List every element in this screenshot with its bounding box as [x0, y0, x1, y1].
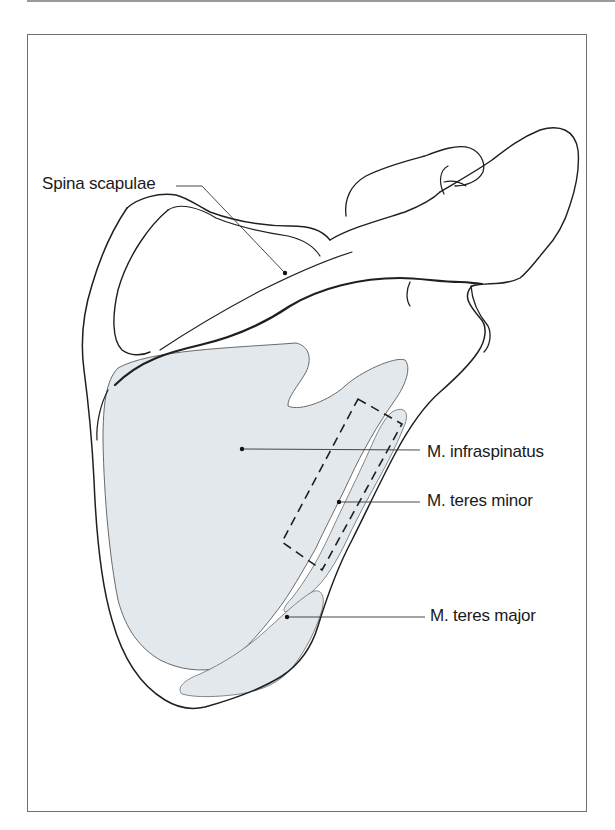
leader-spina-scapulae — [176, 186, 285, 273]
dot-infraspinatus — [240, 447, 244, 451]
label-spina-scapulae: Spina scapulae — [42, 175, 155, 192]
label-teres-major: M. teres major — [430, 607, 536, 624]
dot-spina-scapulae — [283, 271, 287, 275]
scapula-drawing — [0, 0, 615, 830]
dot-teres-major — [285, 615, 289, 619]
label-teres-minor: M. teres minor — [427, 492, 533, 509]
dot-teres-minor — [337, 500, 341, 504]
label-infraspinatus: M. infraspinatus — [427, 443, 544, 460]
